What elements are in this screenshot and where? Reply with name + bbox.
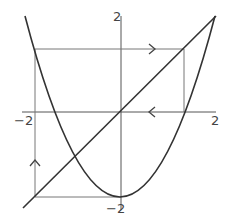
- y-min-label: −2: [106, 202, 125, 215]
- x-min-label: −2: [14, 114, 33, 127]
- cobweb-diagram: [0, 0, 233, 223]
- parabola-curve: [25, 16, 215, 197]
- y-max-label: 2: [113, 10, 121, 23]
- x-max-label: 2: [211, 114, 219, 127]
